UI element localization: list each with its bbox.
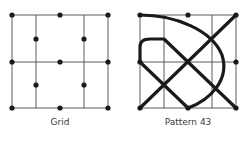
grid-dot [57,105,62,110]
grid-dot [185,105,190,110]
grid-figure [9,12,110,110]
grid-dot [33,82,38,87]
grid-dot [81,36,86,41]
grid-dot [105,12,110,17]
grid-label: Grid [10,117,110,127]
grid-dot [33,36,38,41]
grid-dot [57,59,62,64]
grid-dot [105,105,110,110]
grid-dot [105,59,110,64]
grid-dot [9,59,14,64]
grid-dot [9,12,14,17]
pattern-43-label: Pattern 43 [138,117,238,127]
pattern-43-figure [137,12,238,110]
grid-dot [137,12,142,17]
grid-dot [9,105,14,110]
diagram-canvas [0,0,240,150]
grid-dot [185,12,190,17]
grid-dot [233,59,238,64]
grid-dot [233,105,238,110]
grid-dot [137,105,142,110]
grid-dot [81,82,86,87]
grid-dot [57,12,62,17]
grid-dot [233,12,238,17]
grid-dot [137,59,142,64]
